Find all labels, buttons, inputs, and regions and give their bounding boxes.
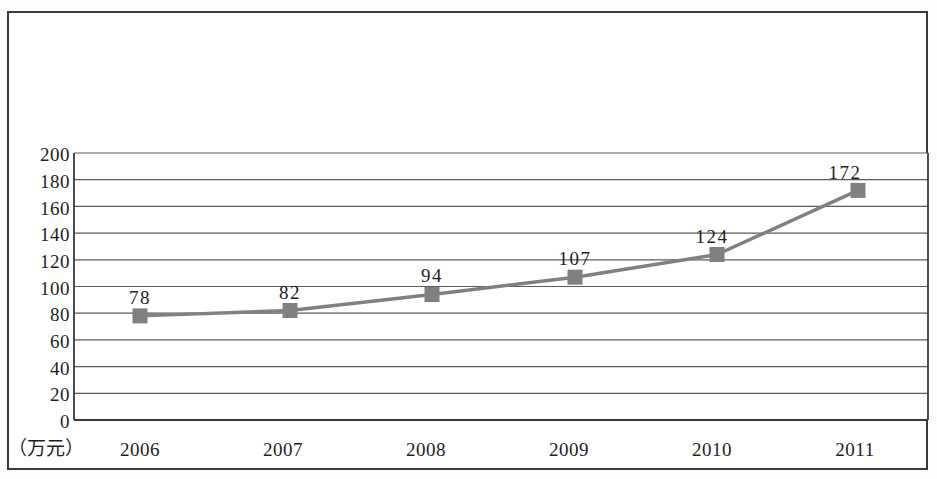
data-point-marker xyxy=(568,270,583,285)
data-point-marker xyxy=(710,247,725,262)
data-point-label: 94 xyxy=(402,266,462,285)
data-point-label: 82 xyxy=(260,283,320,302)
data-point-marker xyxy=(425,287,440,302)
data-point-label: 172 xyxy=(815,163,875,182)
data-point-marker xyxy=(851,183,866,198)
data-point-marker xyxy=(133,308,148,323)
data-point-marker xyxy=(283,303,298,318)
chart-plot-area xyxy=(0,0,937,479)
data-point-label: 78 xyxy=(110,288,170,307)
data-point-label: 124 xyxy=(682,227,742,246)
data-point-label: 107 xyxy=(545,249,605,268)
chart-figure: 200 180 160 140 120 100 80 60 40 20 0 （万… xyxy=(0,0,937,479)
